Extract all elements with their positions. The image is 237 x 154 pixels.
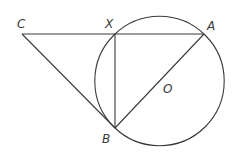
label-point-a: A [206,19,215,33]
geometry-diagram: C X A B O [0,0,237,154]
label-point-b: B [102,132,110,146]
segment-cb [22,34,115,128]
segment-ab-diameter [115,34,204,128]
label-point-c: C [17,17,26,31]
label-point-o: O [163,82,172,96]
label-point-x: X [104,17,114,31]
